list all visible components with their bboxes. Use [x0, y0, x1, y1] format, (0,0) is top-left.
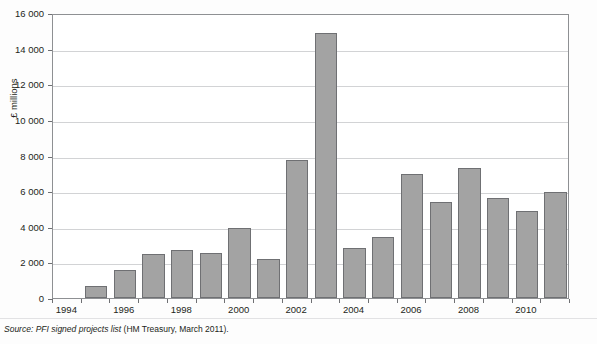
- source-note: Source: PFI signed projects list (HM Tre…: [4, 324, 229, 334]
- x-axis-tick-label: 2010: [506, 304, 546, 315]
- bar: [372, 237, 394, 298]
- bar: [544, 192, 566, 298]
- x-axis-tick: [282, 299, 283, 303]
- bar-series: [53, 15, 568, 298]
- bar: [142, 254, 164, 298]
- chart-figure: £ millions 16 00014 00012 00010 0008 000…: [0, 0, 597, 344]
- y-axis-tick-label: 14 000: [0, 44, 44, 55]
- bar: [85, 286, 107, 298]
- x-axis-tick: [138, 299, 139, 303]
- x-axis-tick-label: 2002: [276, 304, 316, 315]
- source-rest: (HM Treasury, March 2011).: [124, 324, 229, 334]
- plot-area: [52, 14, 569, 299]
- x-axis-tick-label: 2008: [448, 304, 488, 315]
- y-axis-tick-label: 10 000: [0, 115, 44, 126]
- x-axis-tick: [167, 299, 168, 303]
- bar: [516, 211, 538, 298]
- x-axis-tick: [109, 299, 110, 303]
- source-title: PFI signed projects list: [36, 324, 122, 334]
- y-axis-tick-label: 0: [0, 293, 44, 304]
- bar: [200, 253, 222, 298]
- bar: [487, 198, 509, 298]
- y-axis-tick-label: 12 000: [0, 79, 44, 90]
- y-axis-tick-label: 4 000: [0, 222, 44, 233]
- y-axis-tick-label: 8 000: [0, 151, 44, 162]
- x-axis-tick: [311, 299, 312, 303]
- x-axis-tick: [196, 299, 197, 303]
- bar: [228, 228, 250, 298]
- x-axis-tick: [425, 299, 426, 303]
- x-axis-tick-label: 2000: [219, 304, 259, 315]
- x-axis-tick-label: 1994: [46, 304, 86, 315]
- x-axis-tick: [483, 299, 484, 303]
- bar: [430, 202, 452, 298]
- x-axis-tick-label: 2006: [391, 304, 431, 315]
- x-axis-tick: [253, 299, 254, 303]
- footer-rule: [0, 318, 597, 319]
- bar: [343, 248, 365, 298]
- bar: [171, 250, 193, 298]
- x-axis-tick: [569, 299, 570, 303]
- bar: [286, 160, 308, 298]
- y-axis-tick-label: 6 000: [0, 186, 44, 197]
- bar: [257, 259, 279, 298]
- x-axis-tick: [397, 299, 398, 303]
- x-axis-tick: [52, 299, 53, 303]
- y-axis-tick-label: 2 000: [0, 257, 44, 268]
- x-axis-tick: [454, 299, 455, 303]
- x-axis-tick: [224, 299, 225, 303]
- x-axis-tick-label: 1996: [104, 304, 144, 315]
- x-axis-tick: [368, 299, 369, 303]
- source-prefix: Source:: [4, 324, 33, 334]
- x-axis-tick: [512, 299, 513, 303]
- x-axis-tick-label: 1998: [161, 304, 201, 315]
- bar: [315, 33, 337, 298]
- y-axis-tick-label: 16 000: [0, 8, 44, 19]
- x-axis-tick: [81, 299, 82, 303]
- figure-title-cropped: [0, 0, 597, 9]
- bar: [401, 174, 423, 298]
- x-axis-tick: [540, 299, 541, 303]
- bar: [114, 270, 136, 299]
- x-axis-tick: [339, 299, 340, 303]
- x-axis-tick-label: 2004: [334, 304, 374, 315]
- bar: [458, 168, 480, 298]
